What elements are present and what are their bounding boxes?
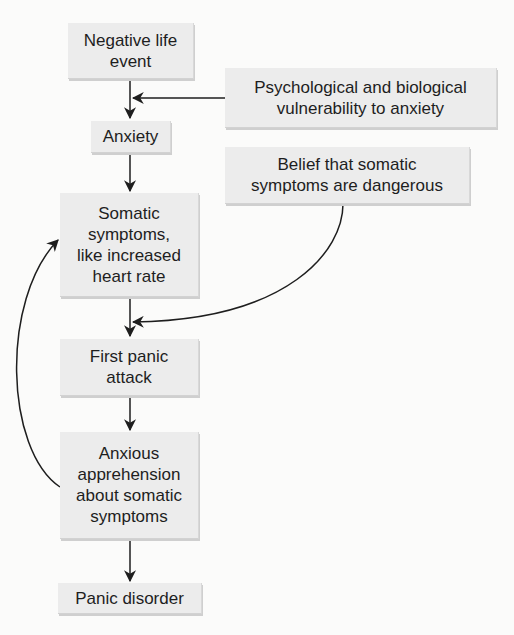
node-vulnerability: Psychological and biological vulnerabili… bbox=[225, 68, 497, 128]
node-panic-disorder: Panic disorder bbox=[58, 583, 202, 614]
node-anxious-apprehension: Anxious apprehension about somatic sympt… bbox=[60, 432, 199, 539]
edge-apprehension-to-somatic-loop bbox=[17, 240, 60, 487]
node-belief: Belief that somatic symptoms are dangero… bbox=[225, 147, 470, 204]
node-somatic-symptoms: Somatic symptoms, like increased heart r… bbox=[60, 193, 199, 297]
node-anxiety: Anxiety bbox=[91, 121, 171, 153]
node-negative-life-event: Negative life event bbox=[68, 23, 194, 79]
node-first-panic-attack: First panic attack bbox=[60, 339, 199, 396]
